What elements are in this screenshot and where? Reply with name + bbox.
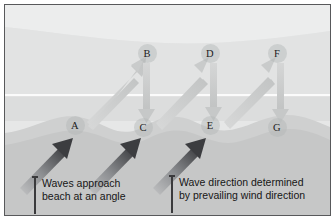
caption-wave-direction-line1: Wave direction determined <box>179 176 305 189</box>
caption-wave-direction-text: Wave direction determined by prevailing … <box>176 173 305 201</box>
marker-f: F <box>268 44 287 63</box>
figure-container: A B C D E F G Waves approach beach at an… <box>0 0 335 220</box>
caption-waves-approach-text: Waves approach beach at an angle <box>39 174 126 202</box>
marker-b-label: B <box>143 48 150 59</box>
marker-c-label: C <box>139 122 146 133</box>
caption-waves-approach: Waves approach beach at an angle <box>32 174 126 214</box>
marker-g-label: G <box>273 122 281 133</box>
marker-a-label: A <box>71 120 79 131</box>
caption-bracket-icon <box>32 174 39 214</box>
marker-e: E <box>201 116 220 135</box>
marker-g: G <box>268 118 287 137</box>
caption-wave-direction-line2: by prevailing wind direction <box>179 189 305 202</box>
marker-f-label: F <box>274 48 280 59</box>
caption-wave-direction: Wave direction determined by prevailing … <box>169 173 305 213</box>
caption-waves-approach-line1: Waves approach <box>42 177 126 190</box>
marker-e-label: E <box>207 120 214 131</box>
caption-bracket-icon <box>169 173 176 213</box>
marker-d: D <box>201 44 220 63</box>
marker-a: A <box>66 116 85 135</box>
marker-b: B <box>138 44 157 63</box>
marker-c: C <box>134 118 153 137</box>
marker-d-label: D <box>206 48 214 59</box>
figure-border: A B C D E F G Waves approach beach at an… <box>4 4 331 216</box>
caption-waves-approach-line2: beach at an angle <box>42 190 126 203</box>
